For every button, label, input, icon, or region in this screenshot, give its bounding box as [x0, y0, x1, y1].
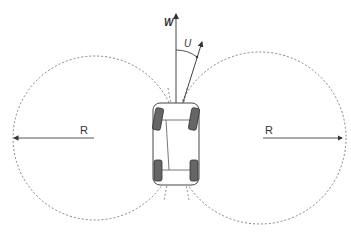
vehicle [152, 103, 200, 185]
rear-left-tire [154, 160, 162, 181]
angle-arc [176, 50, 197, 57]
w-axis-label: W [164, 17, 175, 28]
rear-right-tire [190, 160, 198, 181]
turning-radius-diagram: R R W U [0, 0, 351, 239]
right-radius-label: R [265, 124, 273, 136]
left-radius-label: R [80, 124, 88, 136]
angle-label: U [184, 38, 192, 49]
steering-direction-arrow [180, 42, 202, 112]
